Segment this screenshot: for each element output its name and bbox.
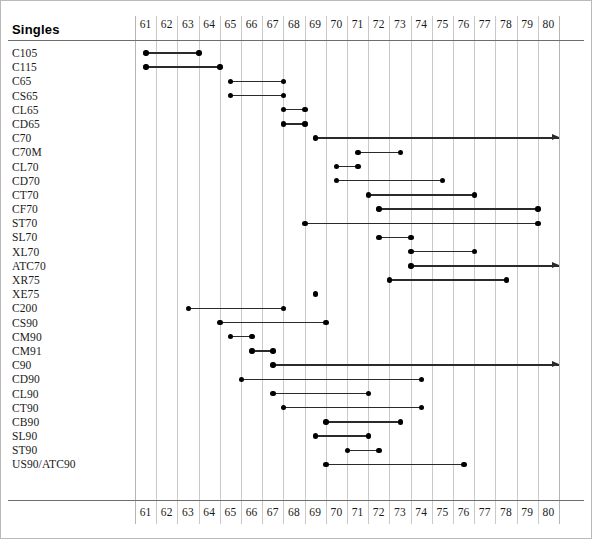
axis-tick-label: 67 [262, 506, 283, 518]
chart-page: Singles 61626364656667686970717273747576… [0, 0, 593, 540]
span-start-marker [334, 178, 339, 183]
span-start-marker [355, 150, 360, 155]
span-end-marker [196, 50, 201, 55]
table-row: CL90 [0, 387, 593, 401]
span-end-marker [398, 419, 403, 424]
axis-tick-label: 75 [432, 506, 453, 518]
row-label: CL90 [12, 387, 39, 401]
axis-tick-label: 64 [199, 18, 220, 30]
axis-tick-label: 66 [241, 18, 262, 30]
span-start-marker [228, 79, 233, 84]
span-start-marker [270, 391, 275, 396]
span-bar [305, 223, 538, 224]
footer-rule [8, 500, 584, 501]
axis-tick-label: 65 [220, 18, 241, 30]
table-row: US90/ATC90 [0, 457, 593, 471]
span-end-marker [281, 79, 286, 84]
span-start-marker [228, 334, 233, 339]
span-start-marker [239, 377, 244, 382]
span-bar [411, 251, 475, 252]
span-start-marker [270, 362, 275, 367]
table-row: CM91 [0, 344, 593, 358]
table-row: XR75 [0, 273, 593, 287]
table-row: SL70 [0, 230, 593, 244]
table-row: ST70 [0, 216, 593, 230]
span-start-marker [408, 249, 413, 254]
table-row: CD65 [0, 117, 593, 131]
span-bar [358, 152, 400, 153]
row-label: CM91 [12, 344, 42, 358]
span-bar [379, 208, 538, 209]
axis-bottom: 6162636465666768697071727374757677787980 [135, 506, 572, 526]
table-row: CF70 [0, 202, 593, 216]
table-row: C105 [0, 46, 593, 60]
span-end-marker [504, 277, 509, 282]
axis-tick-label: 61 [135, 506, 156, 518]
span-end-marker [440, 178, 445, 183]
axis-tick-label: 74 [411, 18, 432, 30]
span-start-marker [281, 405, 286, 410]
row-label: XE75 [12, 287, 39, 301]
span-bar [316, 435, 369, 436]
row-label: C115 [12, 60, 37, 74]
row-label: CD90 [12, 372, 40, 386]
span-bar [241, 379, 421, 380]
axis-tick-label: 71 [347, 506, 368, 518]
axis-tick-label: 71 [347, 18, 368, 30]
table-row: C200 [0, 301, 593, 315]
table-row: CL65 [0, 103, 593, 117]
axis-tick-label: 72 [368, 506, 389, 518]
span-end-marker [323, 320, 328, 325]
table-row: CM90 [0, 330, 593, 344]
span-start-marker [376, 206, 381, 211]
table-row: CB90 [0, 415, 593, 429]
axis-tick-label: 68 [283, 18, 304, 30]
axis-tick-label: 70 [326, 506, 347, 518]
span-start-marker [143, 64, 148, 69]
span-start-marker [313, 135, 318, 140]
span-bar [146, 52, 199, 53]
span-bar [188, 308, 283, 309]
span-arrow-marker [552, 262, 559, 268]
span-start-marker [313, 291, 318, 296]
span-start-marker [313, 433, 318, 438]
row-label: C65 [12, 74, 31, 88]
table-row: C70M [0, 145, 593, 159]
table-row: CD90 [0, 372, 593, 386]
axis-tick-label: 69 [305, 18, 326, 30]
table-row: ATC70 [0, 259, 593, 273]
span-end-marker [302, 121, 307, 126]
span-end-marker [376, 448, 381, 453]
span-bar [284, 407, 422, 408]
axis-tick-label: 78 [495, 18, 516, 30]
axis-tick-label: 69 [305, 506, 326, 518]
row-label: C105 [12, 46, 37, 60]
row-label: SL70 [12, 230, 37, 244]
span-bar [273, 393, 368, 394]
row-label: CB90 [12, 415, 39, 429]
span-start-marker [217, 320, 222, 325]
span-bar [337, 180, 443, 181]
axis-tick-label: 63 [177, 18, 198, 30]
table-row: SL90 [0, 429, 593, 443]
span-bar [231, 81, 284, 82]
axis-tick-label: 67 [262, 18, 283, 30]
axis-tick-label: 70 [326, 18, 347, 30]
span-start-marker [408, 263, 413, 268]
span-start-marker [281, 121, 286, 126]
span-end-marker [535, 206, 540, 211]
span-start-marker [228, 93, 233, 98]
span-bar [316, 137, 560, 138]
span-bar [369, 194, 475, 195]
span-start-marker [345, 448, 350, 453]
span-bar [220, 322, 326, 323]
row-label: CF70 [12, 202, 38, 216]
table-row: XE75 [0, 287, 593, 301]
table-row: CT70 [0, 188, 593, 202]
axis-tick-label: 76 [453, 18, 474, 30]
span-end-marker [408, 235, 413, 240]
axis-tick-label: 73 [389, 18, 410, 30]
row-label: XL70 [12, 245, 39, 259]
span-end-marker [249, 334, 254, 339]
axis-tick-label: 61 [135, 18, 156, 30]
